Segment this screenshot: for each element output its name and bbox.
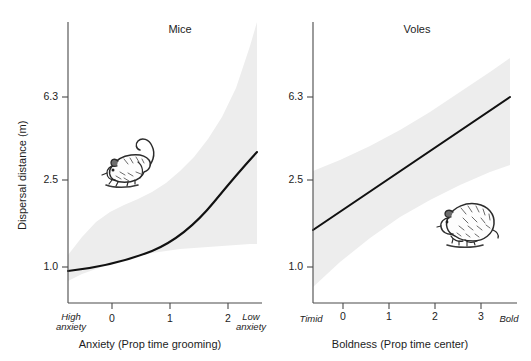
x-axis-title-mice: Anxiety (Prop time grooming) [35,338,265,350]
x-end-label-timid: Timid [291,314,331,324]
y-tick-label-2-5-voles: 2.5 [275,173,303,185]
vole-illustration [433,192,503,258]
x-axis-title-voles: Boldness (Prop time center) [285,338,515,350]
y-tick-label-6-3-mice: 6.3 [30,90,58,102]
y-tick-label-1-0-mice: 1.0 [30,260,58,272]
plot-area-voles [265,0,531,361]
y-tick-label-2-5-mice: 2.5 [30,173,58,185]
panel-mice: Mice 6.3 2.5 1.0 0 1 2 High anx [0,0,265,361]
x-end-label-bold: Bold [489,314,529,324]
x-tick-label-0-voles: 0 [328,310,358,322]
x-end-label-high-anxiety-line1: High anxiety [48,312,94,332]
mouse-illustration [98,126,170,198]
x-tick-label-1-voles: 1 [374,310,404,322]
x-end-label-high-anxiety: High anxiety [48,312,94,332]
x-tick-label-2-voles: 2 [420,310,450,322]
y-tick-label-6-3-voles: 6.3 [275,90,303,102]
panel-voles: Voles 6.3 2.5 1.0 0 1 2 3 T [265,0,530,361]
x-tick-label-0-mice: 0 [97,312,127,324]
figure-container: Dispersal distance (m) Mice 6.3 2.5 1.0 … [0,0,531,361]
y-tick-label-1-0-voles: 1.0 [275,260,303,272]
x-tick-label-1-mice: 1 [155,312,185,324]
